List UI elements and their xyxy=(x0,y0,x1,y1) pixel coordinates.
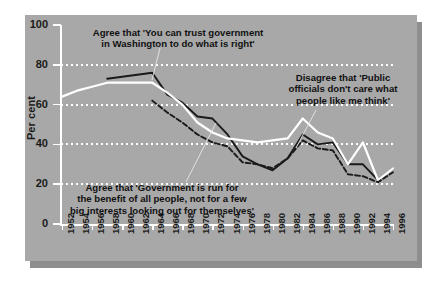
annotation-public-officials: Disagree that 'Public officials don't ca… xyxy=(268,72,418,106)
chart-figure: 020406080100 195219541956195819601962196… xyxy=(0,0,440,285)
annotation-trust-government: Agree that 'You can trust government in … xyxy=(84,27,272,50)
annotation-government-benefit: Agree that 'Government is run for the be… xyxy=(52,182,272,216)
chart-panel xyxy=(25,15,417,261)
